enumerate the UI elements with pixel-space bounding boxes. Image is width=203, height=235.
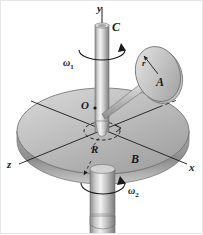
omega1-subscript: 1 bbox=[70, 63, 74, 71]
omega2-label: ω2 bbox=[128, 186, 139, 199]
lower-shaft bbox=[90, 165, 115, 235]
origin-marker bbox=[93, 106, 96, 109]
axis-z-label: z bbox=[7, 159, 11, 170]
vertical-shaft-C bbox=[95, 23, 109, 137]
axis-y-label: y bbox=[97, 3, 102, 14]
turntable-radius-label: R bbox=[91, 144, 98, 155]
disk-A-radius-label: r bbox=[142, 59, 146, 68]
shaft-C-label: C bbox=[112, 21, 120, 33]
origin-label: O bbox=[81, 100, 89, 111]
disk-A-label: A bbox=[156, 76, 164, 88]
turntable-B-label: B bbox=[131, 153, 139, 165]
mechanics-figure: y C ω1 r A O z R B x ω2 bbox=[0, 0, 203, 234]
figure-drawing bbox=[1, 1, 203, 234]
axis-x-label: x bbox=[189, 162, 195, 173]
omega2-subscript: 2 bbox=[135, 191, 139, 199]
omega1-label: ω1 bbox=[63, 58, 74, 71]
